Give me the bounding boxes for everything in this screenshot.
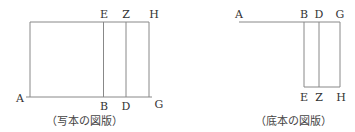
base-text-caption: （底本の図版） [255, 112, 332, 128]
label-D: D [122, 101, 131, 112]
label-B: B [300, 9, 308, 20]
label-B: B [100, 101, 108, 112]
manuscript-figure [26, 22, 152, 97]
label-G: G [155, 99, 164, 110]
label-G: G [336, 9, 345, 20]
label-D: D [315, 9, 324, 20]
label-E: E [100, 9, 108, 20]
label-Z: Z [122, 9, 130, 20]
label-A: A [235, 9, 243, 20]
label-Z: Z [315, 92, 323, 103]
label-A: A [16, 93, 24, 104]
label-H: H [149, 9, 159, 20]
manuscript-caption: （写本の図版） [46, 112, 123, 128]
base-text-figure [239, 22, 340, 87]
label-H: H [336, 92, 346, 103]
label-E: E [300, 92, 308, 103]
